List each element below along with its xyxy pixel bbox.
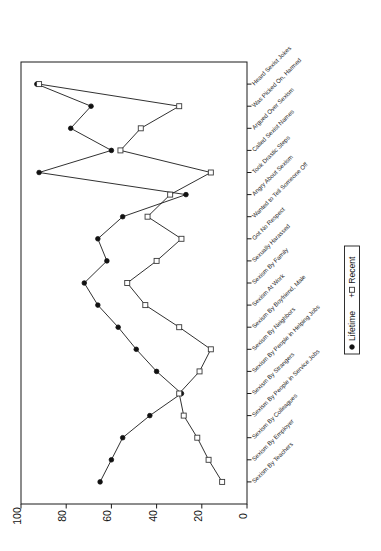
value-axis-label: 0	[237, 513, 249, 519]
category-axis-label: Sexually Harassed	[250, 222, 291, 263]
data-point-recent[interactable]	[181, 413, 186, 418]
plot-area-frame	[21, 62, 247, 504]
data-point-lifetime[interactable]	[37, 170, 42, 175]
category-axis-label: Argued Over Sexism	[250, 86, 295, 131]
data-point-lifetime[interactable]	[148, 413, 153, 418]
category-axis-label: Called Sexist Names	[250, 108, 295, 153]
data-point-recent[interactable]	[37, 82, 42, 87]
category-axis-label: Sexism By Employer	[250, 417, 295, 462]
category-axis-label: Sexism By Teachers	[250, 440, 294, 484]
category-axis-label: Took Drastic Steps	[250, 134, 291, 175]
data-point-recent[interactable]	[154, 258, 159, 263]
legend-separator: +	[347, 293, 357, 298]
data-point-recent[interactable]	[177, 391, 182, 396]
data-point-lifetime[interactable]	[120, 214, 125, 219]
data-point-recent[interactable]	[208, 347, 213, 352]
legend: Lifetime+Recent	[345, 246, 360, 354]
data-point-lifetime[interactable]	[109, 148, 114, 153]
data-point-lifetime[interactable]	[105, 259, 110, 264]
data-point-lifetime[interactable]	[82, 281, 87, 286]
line-chart: Heard Sexist JokesWas Picked On, HarmedA…	[0, 0, 381, 551]
legend-marker-lifetime	[350, 345, 355, 350]
data-point-recent[interactable]	[177, 325, 182, 330]
data-point-lifetime[interactable]	[184, 192, 189, 197]
data-point-recent[interactable]	[179, 236, 184, 241]
data-point-recent[interactable]	[125, 281, 130, 286]
data-point-recent[interactable]	[195, 435, 200, 440]
category-axis-label: Angry About Sexism	[250, 153, 294, 197]
chart-canvas: Heard Sexist JokesWas Picked On, HarmedA…	[0, 0, 381, 551]
data-point-recent[interactable]	[208, 170, 213, 175]
data-point-recent[interactable]	[177, 104, 182, 109]
data-point-lifetime[interactable]	[154, 369, 159, 374]
data-point-recent[interactable]	[118, 148, 123, 153]
value-axis-label: 80	[56, 510, 68, 522]
data-point-recent[interactable]	[143, 303, 148, 308]
data-point-lifetime[interactable]	[120, 435, 125, 440]
data-point-recent[interactable]	[168, 192, 173, 197]
data-point-lifetime[interactable]	[98, 480, 103, 485]
value-axis-label: 60	[101, 510, 113, 522]
legend-label-lifetime: Lifetime	[347, 311, 357, 341]
data-point-recent[interactable]	[220, 479, 225, 484]
value-axis-label: 20	[192, 510, 204, 522]
legend-label-recent: Recent	[347, 256, 357, 284]
series-line-recent	[39, 84, 222, 482]
legend-marker-recent	[350, 287, 355, 292]
data-point-lifetime[interactable]	[134, 347, 139, 352]
data-point-lifetime[interactable]	[68, 126, 73, 131]
data-point-lifetime[interactable]	[96, 303, 101, 308]
data-point-recent[interactable]	[197, 369, 202, 374]
data-point-lifetime[interactable]	[89, 104, 94, 109]
series-line-lifetime	[37, 84, 186, 482]
value-axis-label: 100	[11, 507, 23, 525]
data-point-lifetime[interactable]	[116, 325, 121, 330]
data-point-lifetime[interactable]	[109, 458, 114, 463]
data-point-recent[interactable]	[206, 457, 211, 462]
data-point-recent[interactable]	[138, 126, 143, 131]
data-point-recent[interactable]	[145, 214, 150, 219]
category-axis-label: Heard Sexist Jokes	[250, 44, 292, 86]
value-axis-label: 40	[147, 510, 159, 522]
data-point-lifetime[interactable]	[96, 237, 101, 242]
